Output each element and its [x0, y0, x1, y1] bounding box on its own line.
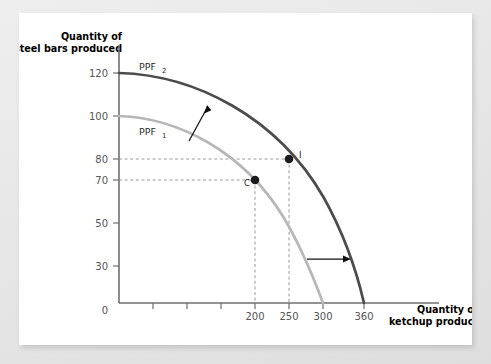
- point-c-dot: [251, 176, 260, 185]
- ppf-chart: Quantity of steel bars produced Quantity…: [19, 13, 472, 345]
- ppf1-curve: [119, 116, 323, 303]
- y-axis-ticks: 120 100 80 70 50 30 0: [89, 68, 119, 316]
- x-tick-label-360: 360: [354, 311, 373, 322]
- point-c-label: C: [244, 178, 250, 188]
- x-axis-title-line2: ketchup produced (bottles): [389, 316, 472, 327]
- ppf1-label-group: PPF 1: [139, 126, 166, 140]
- ppf2-curve: [119, 73, 364, 303]
- x-tick-label-250: 250: [279, 311, 298, 322]
- y-tick-label-100: 100: [89, 111, 108, 122]
- x-axis-ticks: 200 250 300 360: [153, 303, 374, 322]
- ppf1-label: PPF: [139, 126, 156, 137]
- y-axis-title-line2: steel bars produced: [19, 43, 122, 54]
- upward-shift-arrow: [189, 105, 211, 141]
- y-axis-title-line1: Quantity of: [61, 31, 123, 42]
- y-tick-label-0: 0: [102, 305, 108, 316]
- point-i-dot: [285, 155, 294, 164]
- y-tick-label-70: 70: [95, 175, 108, 186]
- x-tick-label-200: 200: [245, 311, 264, 322]
- x-tick-label-300: 300: [313, 311, 332, 322]
- ppf2-label: PPF: [139, 61, 156, 72]
- ppf2-label-group: PPF 2: [139, 61, 166, 75]
- y-tick-label-120: 120: [89, 68, 108, 79]
- y-tick-label-30: 30: [95, 261, 108, 272]
- ppf1-label-subscript: 1: [162, 132, 166, 140]
- y-tick-label-80: 80: [95, 154, 108, 165]
- point-i-label: I: [299, 150, 302, 160]
- ppf2-label-subscript: 2: [162, 67, 166, 75]
- figure-card: Quantity of steel bars produced Quantity…: [19, 13, 472, 345]
- data-point-c: C: [244, 176, 259, 188]
- x-axis-title-line1: Quantity of: [417, 304, 472, 315]
- y-tick-label-50: 50: [95, 218, 108, 229]
- guide-lines: [119, 159, 289, 303]
- rightward-shift-arrow: [307, 255, 351, 262]
